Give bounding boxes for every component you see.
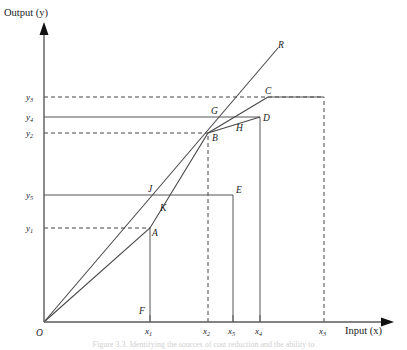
x-axis-title: Input (x)	[345, 325, 383, 337]
point-label-C: C	[265, 86, 272, 96]
y-axis-arrow-icon	[40, 22, 49, 35]
y-tick-y4: y4	[25, 112, 33, 123]
figure-caption: Figure 3.3. Identifying the sources of c…	[0, 340, 407, 349]
ray-or	[44, 48, 278, 322]
segment-bd-line	[208, 117, 260, 133]
frontier-curve	[44, 97, 268, 322]
axes-group	[44, 30, 386, 322]
y-tick-y5: y5	[25, 190, 33, 201]
frontier-oabc	[44, 97, 268, 322]
y-axis-tick-labels: y3 y4 y2 y5 y1	[25, 92, 33, 234]
dashed-guides	[44, 97, 324, 322]
ray-or-line	[44, 48, 278, 322]
point-label-B: B	[212, 133, 218, 143]
x-axis-tick-labels: x1 x2 x5 x4 x3	[144, 326, 326, 337]
x-tick-x4: x4	[254, 326, 262, 337]
point-label-D: D	[262, 113, 270, 123]
production-frontier-diagram: Output (y) Input (x) O y3 y4 y2 y5 y1 x1	[0, 0, 407, 350]
point-label-F: F	[138, 306, 145, 316]
origin-label: O	[36, 328, 43, 338]
x-tick-x5: x5	[227, 326, 235, 337]
point-label-R: R	[277, 40, 284, 50]
x-tick-x3: x3	[318, 326, 326, 337]
point-label-G: G	[211, 106, 218, 116]
y-axis-title: Output (y)	[4, 7, 49, 19]
point-label-A: A	[151, 228, 158, 238]
point-labels: R C G D H B E J K A F	[138, 40, 284, 316]
x-axis-ticks	[150, 315, 260, 322]
x-tick-x2: x2	[202, 326, 210, 337]
figure-container: Output (y) Input (x) O y3 y4 y2 y5 y1 x1	[0, 0, 407, 350]
point-label-E: E	[235, 185, 242, 195]
x-tick-x1: x1	[144, 326, 152, 337]
y-tick-y3: y3	[25, 92, 33, 103]
x-axis-arrow-icon	[381, 318, 394, 327]
point-label-J: J	[148, 184, 153, 194]
solid-construction-lines	[44, 97, 324, 322]
segment-bd	[208, 117, 260, 133]
point-label-K: K	[159, 203, 167, 213]
y-tick-y2: y2	[25, 128, 33, 139]
point-label-H: H	[235, 123, 244, 133]
y-tick-y1: y1	[25, 223, 33, 234]
